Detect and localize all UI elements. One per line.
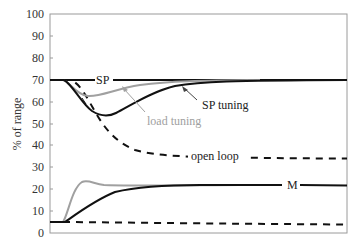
chart: 0 10 20 30 40 50 60 70 80 90 100 % of ra… <box>0 0 364 252</box>
label-open-loop: open loop <box>191 149 239 163</box>
label-sp: SP <box>96 73 110 87</box>
series-open-loop-m <box>50 222 347 225</box>
label-m: M <box>287 178 298 192</box>
series-sp-tuning-m <box>50 185 347 222</box>
y-tick-100: 100 <box>26 7 44 21</box>
y-tick-60: 60 <box>32 95 44 109</box>
y-axis-label: % of range <box>10 98 24 151</box>
series-sp-tuning-cv <box>50 80 347 115</box>
label-sp-tuning: SP tuning <box>202 98 249 112</box>
label-load-tuning: load tuning <box>147 114 201 128</box>
y-tick-90: 90 <box>32 29 44 43</box>
y-tick-70: 70 <box>32 73 44 87</box>
y-tick-0: 0 <box>38 226 44 240</box>
y-tick-20: 20 <box>32 182 44 196</box>
y-tick-10: 10 <box>32 204 44 218</box>
y-tick-40: 40 <box>32 138 44 152</box>
y-tick-50: 50 <box>32 117 44 131</box>
y-axis-ticks: 0 10 20 30 40 50 60 70 80 90 100 <box>26 7 44 240</box>
y-tick-30: 30 <box>32 160 44 174</box>
y-tick-80: 80 <box>32 51 44 65</box>
arrow-load-tuning <box>124 89 145 112</box>
